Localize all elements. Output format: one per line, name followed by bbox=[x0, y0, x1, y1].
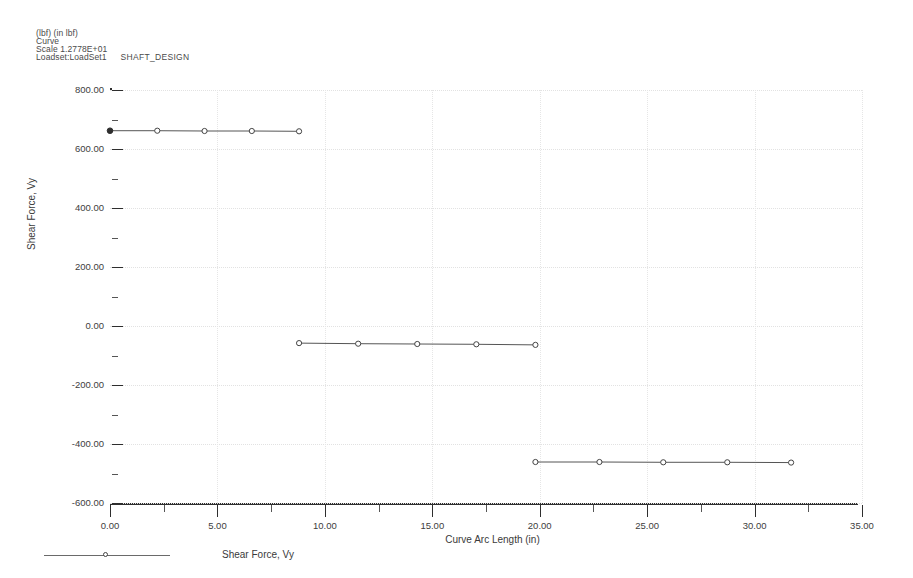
y-axis-title: Shear Force, Vy bbox=[26, 178, 37, 250]
y-tick-minor bbox=[112, 238, 118, 239]
gridline-vertical bbox=[862, 90, 863, 503]
x-tick-major bbox=[647, 505, 648, 517]
x-tick-major bbox=[325, 505, 326, 517]
data-point-marker bbox=[249, 128, 254, 133]
x-tick-minor bbox=[379, 505, 380, 512]
header-loadset-name: SHAFT_DESIGN bbox=[121, 52, 190, 62]
y-tick-minor bbox=[112, 179, 118, 180]
legend-label: Shear Force, Vy bbox=[222, 549, 294, 560]
x-axis-title: Curve Arc Length (in) bbox=[0, 534, 913, 545]
x-tick-minor bbox=[701, 505, 702, 512]
x-tick-label: 5.00 bbox=[187, 520, 247, 531]
y-tick-label: -600.00 bbox=[34, 497, 104, 508]
data-point-marker bbox=[415, 341, 420, 346]
y-tick-minor bbox=[112, 120, 118, 121]
data-point-marker bbox=[296, 341, 301, 346]
y-tick-label: -400.00 bbox=[34, 438, 104, 449]
data-point-marker bbox=[597, 459, 602, 464]
gridline-horizontal bbox=[110, 503, 862, 504]
circle-marker-icon bbox=[103, 552, 108, 557]
header-loadset: Loadset:LoadSet1SHAFT_DESIGN bbox=[36, 53, 189, 62]
x-tick-major bbox=[755, 505, 756, 517]
x-tick-label: 20.00 bbox=[510, 520, 570, 531]
y-tick-major bbox=[112, 326, 123, 327]
header-loadset-id: Loadset:LoadSet1 bbox=[36, 52, 107, 62]
x-tick-label: 35.00 bbox=[832, 520, 892, 531]
x-tick-minor bbox=[164, 505, 165, 512]
data-point-marker bbox=[202, 128, 207, 133]
data-point-marker bbox=[474, 342, 479, 347]
y-tick-label: 0.00 bbox=[34, 320, 104, 331]
x-tick-label: 10.00 bbox=[295, 520, 355, 531]
y-tick-major bbox=[112, 267, 123, 268]
y-tick-label: 600.00 bbox=[34, 143, 104, 154]
data-point-marker bbox=[296, 129, 301, 134]
data-point-marker bbox=[107, 128, 113, 134]
y-tick-major bbox=[112, 149, 123, 150]
x-tick-label: 25.00 bbox=[617, 520, 677, 531]
data-point-marker bbox=[533, 459, 538, 464]
y-tick-minor bbox=[112, 474, 118, 475]
y-tick-label: 200.00 bbox=[34, 261, 104, 272]
data-point-marker bbox=[661, 460, 666, 465]
x-tick-major bbox=[110, 505, 111, 517]
plot-header-block: (lbf) (in lbf) Curve Scale 1.2778E+01 Lo… bbox=[36, 29, 456, 73]
x-tick-major bbox=[862, 505, 863, 517]
y-tick-minor bbox=[112, 297, 118, 298]
x-tick-minor bbox=[271, 505, 272, 512]
x-tick-minor bbox=[593, 505, 594, 512]
y-tick-label: 800.00 bbox=[34, 84, 104, 95]
y-tick-label: 400.00 bbox=[34, 202, 104, 213]
x-tick-major bbox=[217, 505, 218, 517]
x-tick-minor bbox=[486, 505, 487, 512]
plot-area bbox=[110, 90, 862, 503]
x-tick-label: 30.00 bbox=[725, 520, 785, 531]
y-tick-major bbox=[112, 385, 123, 386]
x-tick-major bbox=[540, 505, 541, 517]
data-point-marker bbox=[533, 342, 538, 347]
x-tick-major bbox=[432, 505, 433, 517]
data-point-marker bbox=[155, 128, 160, 133]
x-tick-label: 15.00 bbox=[402, 520, 462, 531]
y-tick-major bbox=[112, 503, 123, 504]
data-series-layer bbox=[110, 90, 862, 503]
x-tick-label: 0.00 bbox=[80, 520, 140, 531]
x-tick-minor bbox=[808, 505, 809, 512]
y-tick-major bbox=[112, 208, 123, 209]
y-tick-major bbox=[112, 90, 123, 91]
legend: Shear Force, Vy bbox=[44, 549, 294, 560]
y-tick-minor bbox=[112, 356, 118, 357]
data-point-marker bbox=[356, 341, 361, 346]
legend-swatch bbox=[44, 550, 170, 560]
y-tick-label: -200.00 bbox=[34, 379, 104, 390]
y-tick-major bbox=[112, 444, 123, 445]
data-point-marker bbox=[725, 460, 730, 465]
data-point-marker bbox=[789, 460, 794, 465]
y-tick-minor bbox=[112, 415, 118, 416]
